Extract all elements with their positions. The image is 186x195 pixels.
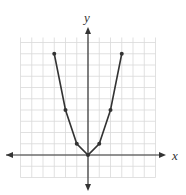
x-axis-label: x — [171, 148, 178, 163]
data-point-marker — [86, 153, 90, 157]
data-point-marker — [120, 52, 124, 56]
data-point-marker — [75, 142, 79, 146]
data-point-marker — [64, 108, 68, 112]
data-point-marker — [52, 52, 56, 56]
data-point-marker — [109, 108, 113, 112]
chart-canvas: x y — [0, 0, 186, 195]
x-axis-left-arrow-icon — [6, 152, 13, 158]
y-axis-label: y — [82, 10, 90, 25]
x-axis-right-arrow-icon — [159, 152, 166, 158]
data-point-marker — [97, 142, 101, 146]
y-axis-up-arrow-icon — [85, 27, 91, 34]
y-axis-down-arrow-icon — [85, 184, 91, 191]
